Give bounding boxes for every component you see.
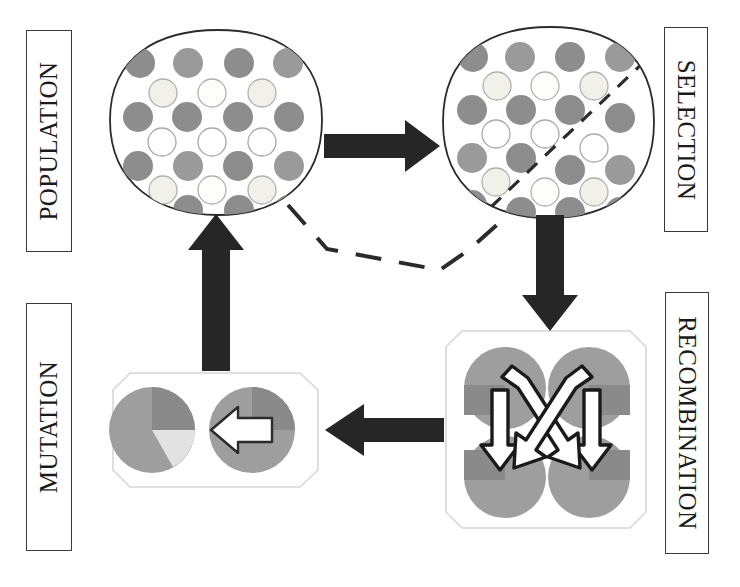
arrow-selection-to-recombination[interactable] [522, 215, 578, 331]
arrow-recombination-to-mutation[interactable] [325, 404, 444, 456]
label-selection: SELECTION [664, 27, 708, 232]
mutation-circle-after [109, 387, 195, 473]
label-population: POPULATION [26, 30, 72, 252]
label-selection-text: SELECTION [672, 59, 700, 200]
population-node[interactable] [110, 30, 322, 225]
diagram-graphics [0, 0, 740, 587]
diagram-canvas: POPULATION SELECTION MUTATION RECOMBINAT… [0, 0, 740, 587]
label-population-text: POPULATION [35, 61, 63, 220]
mutation-node[interactable] [109, 373, 318, 487]
arrow-mutation-to-population[interactable] [188, 214, 244, 371]
recombination-node[interactable] [446, 331, 646, 528]
label-mutation-text: MUTATION [35, 361, 63, 494]
arrow-population-to-selection[interactable] [324, 120, 440, 172]
label-recombination: RECOMBINATION [665, 292, 709, 554]
label-recombination-text: RECOMBINATION [673, 316, 701, 529]
label-mutation: MUTATION [26, 303, 72, 551]
selection-node[interactable] [443, 27, 654, 227]
dashed-connector-population-selection [288, 205, 500, 270]
